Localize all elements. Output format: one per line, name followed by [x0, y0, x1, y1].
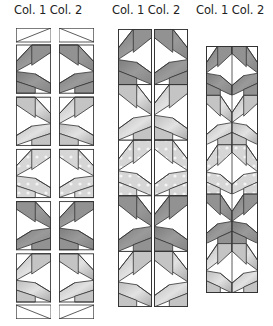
group1-col2-strip — [59, 28, 94, 319]
group1-col1-strip — [16, 28, 51, 319]
group3-column-labels: Col. 1 Col. 2 — [196, 3, 264, 17]
group1-column-labels: Col. 1 Col. 2 — [14, 3, 82, 17]
group3-joined-strip — [206, 46, 258, 293]
group2-col1-strip — [118, 29, 152, 307]
group2-col2-strip — [154, 29, 188, 307]
group2-column-labels: Col. 1 Col. 2 — [112, 3, 180, 17]
